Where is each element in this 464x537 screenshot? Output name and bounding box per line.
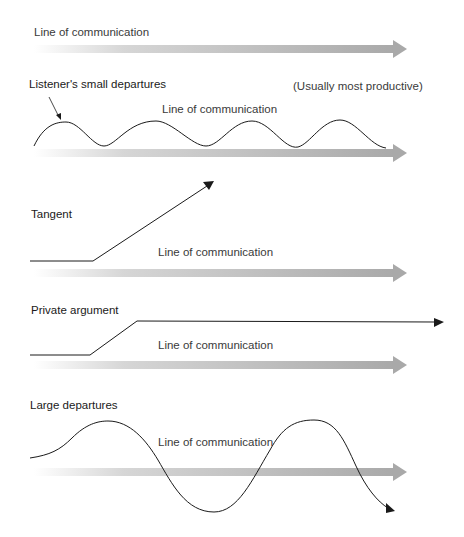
panel-title-small-departures: Listener's small departures (29, 79, 166, 91)
communication-arrow-1 (34, 40, 407, 58)
communication-arrow-3 (34, 264, 407, 282)
arrow-label-3: Line of communication (158, 247, 273, 259)
communication-arrow-4 (34, 356, 407, 374)
communication-arrow-5 (34, 463, 407, 481)
large-departures-curve (30, 420, 395, 513)
arrow-label-4: Line of communication (158, 340, 273, 352)
panel-note-productive: (Usually most productive) (293, 81, 423, 93)
panel-title-tangent: Tangent (31, 209, 72, 221)
arrow-label-5: Line of communication (158, 437, 273, 449)
panel-title-large-departures: Large departures (30, 400, 118, 412)
communication-arrow-2 (34, 144, 407, 162)
arrow-label-2: Line of communication (162, 104, 277, 116)
panel-title-private-argument: Private argument (31, 305, 119, 317)
small-departures-wave (34, 120, 386, 148)
pointer-arrow-icon (49, 97, 61, 120)
arrow-label-1: Line of communication (34, 27, 149, 39)
